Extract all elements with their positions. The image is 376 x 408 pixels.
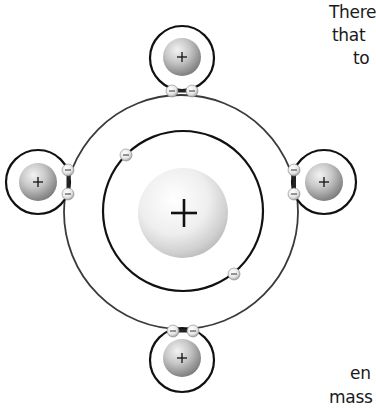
electron [62,188,74,200]
electron [187,325,199,337]
text-fragment-there: There [329,4,376,21]
text-fragment-that: that [332,27,365,44]
satellite-atom-top [150,26,214,97]
electron [62,164,74,176]
text-fragment-mass: mass [329,389,373,406]
electron [167,325,179,337]
electron [288,188,300,200]
electron [120,149,132,161]
electron [288,164,300,176]
electron [186,85,198,97]
text-fragment-en: en [350,365,371,382]
central-nucleus [138,168,228,258]
satellite-atom-bottom [150,325,214,392]
text-fragment-to: to [353,50,369,67]
electron [228,268,240,280]
electron [166,85,178,97]
